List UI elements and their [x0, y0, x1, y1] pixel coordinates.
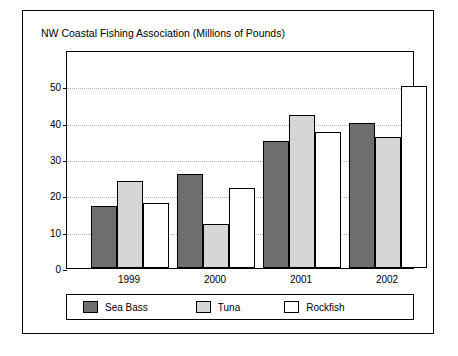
bar-group [177, 52, 255, 268]
x-tick-label: 2001 [290, 274, 312, 285]
legend-swatch-icon [284, 301, 299, 313]
legend-item-tuna: Tuna [196, 301, 240, 313]
bar-sea-bass [263, 141, 289, 268]
bar-tuna [289, 115, 315, 268]
bar-sea-bass [177, 174, 203, 269]
bars-layer [67, 52, 413, 268]
legend-label: Rockfish [306, 302, 344, 313]
bar-rockfish [143, 203, 169, 268]
x-tick-label: 2002 [376, 274, 398, 285]
y-axis: 0 10 20 30 40 50 [35, 51, 61, 269]
legend-item-sea-bass: Sea Bass [83, 301, 148, 313]
chart-card: NW Coastal Fishing Association (Millions… [22, 10, 434, 334]
y-tickmark [63, 270, 67, 271]
y-tick-label: 40 [37, 118, 61, 129]
bar-rockfish [315, 132, 341, 268]
y-tick-label: 10 [37, 227, 61, 238]
y-tick-label: 30 [37, 155, 61, 166]
bar-sea-bass [349, 123, 375, 268]
x-tick-label: 2000 [204, 274, 226, 285]
y-tick-label: 0 [37, 264, 61, 275]
y-tick-label: 50 [37, 82, 61, 93]
legend-swatch-icon [83, 301, 98, 313]
bar-group [263, 52, 341, 268]
bar-group [349, 52, 427, 268]
legend: Sea Bass Tuna Rockfish [66, 294, 414, 320]
bar-rockfish [229, 188, 255, 268]
legend-swatch-icon [196, 301, 211, 313]
y-tick-label: 20 [37, 191, 61, 202]
legend-item-rockfish: Rockfish [284, 301, 344, 313]
bar-tuna [375, 137, 401, 268]
legend-label: Sea Bass [105, 302, 148, 313]
chart-title: NW Coastal Fishing Association (Millions… [41, 27, 285, 39]
bar-tuna [117, 181, 143, 268]
bar-sea-bass [91, 206, 117, 268]
plot-area [66, 51, 414, 269]
bar-group [91, 52, 169, 268]
x-tick-label: 1999 [118, 274, 140, 285]
bar-rockfish [401, 86, 427, 268]
legend-label: Tuna [218, 302, 240, 313]
bar-tuna [203, 224, 229, 268]
